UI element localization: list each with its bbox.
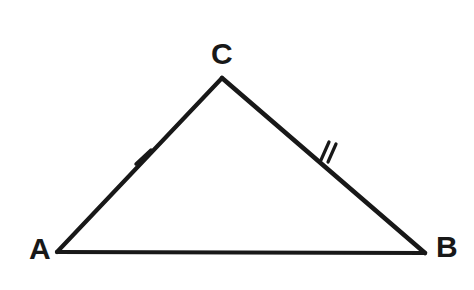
vertex-label-a: A xyxy=(29,234,51,264)
vertex-label-b: B xyxy=(436,232,458,262)
geometry-figure: A B C xyxy=(0,0,474,290)
vertex-label-c: C xyxy=(211,39,233,69)
side-ab xyxy=(57,252,425,253)
triangle-drawing xyxy=(0,0,474,290)
canvas-background xyxy=(0,0,474,290)
